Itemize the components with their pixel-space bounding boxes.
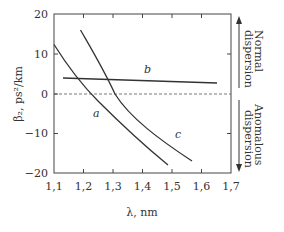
y-axis-label: β₂, ps²/km bbox=[12, 66, 25, 122]
x-tick-1-4: 1,4 bbox=[134, 180, 152, 193]
y-tick-0: 0 bbox=[41, 88, 48, 101]
curve-c-label: c bbox=[175, 128, 181, 141]
curve-b bbox=[63, 78, 217, 83]
plot-frame bbox=[54, 14, 231, 173]
curve-b-label: b bbox=[144, 63, 151, 76]
x-axis-label: λ, nm bbox=[126, 206, 158, 219]
x-tick-1-2: 1,2 bbox=[75, 180, 93, 193]
x-ticks bbox=[84, 14, 202, 173]
anomalous-label-line2: dispersion bbox=[242, 110, 255, 168]
x-tick-1-6: 1,6 bbox=[193, 180, 211, 193]
curve-a-label: a bbox=[93, 107, 100, 120]
dispersion-chart: 20 10 0 −10 −20 1,1 1,2 1,3 1,4 1,5 1,6 … bbox=[0, 0, 284, 232]
y-tick-10: 10 bbox=[34, 48, 48, 61]
x-tick-1-3: 1,3 bbox=[104, 180, 122, 193]
curve-c bbox=[81, 30, 193, 161]
x-tick-1-1: 1,1 bbox=[45, 180, 63, 193]
normal-dispersion-arrow bbox=[236, 16, 242, 88]
y-tick-minus20: −20 bbox=[25, 167, 48, 180]
x-tick-1-5: 1,5 bbox=[163, 180, 181, 193]
y-tick-minus10: −10 bbox=[25, 127, 48, 140]
normal-label-line2: dispersion bbox=[242, 30, 255, 88]
y-tick-20: 20 bbox=[34, 8, 48, 21]
anomalous-dispersion-arrow bbox=[236, 100, 242, 172]
x-tick-1-7: 1,7 bbox=[222, 180, 240, 193]
